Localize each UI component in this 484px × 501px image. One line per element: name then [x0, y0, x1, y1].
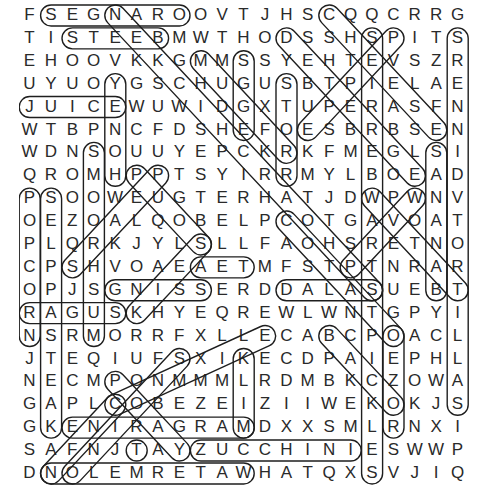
grid-letter[interactable]: R — [62, 325, 83, 347]
grid-letter[interactable]: L — [233, 370, 254, 392]
grid-letter[interactable]: X — [340, 462, 361, 484]
grid-letter[interactable]: O — [105, 325, 126, 347]
grid-letter[interactable]: C — [254, 439, 275, 461]
grid-letter[interactable]: A — [426, 210, 447, 232]
grid-letter[interactable]: U — [147, 141, 168, 163]
grid-letter[interactable]: S — [62, 27, 83, 49]
grid-letter[interactable]: P — [383, 187, 404, 209]
grid-letter[interactable]: A — [340, 348, 361, 370]
grid-letter[interactable]: E — [233, 119, 254, 141]
grid-letter[interactable]: N — [447, 96, 468, 118]
grid-letter[interactable]: G — [169, 50, 190, 72]
grid-letter[interactable]: O — [83, 187, 104, 209]
grid-letter[interactable]: U — [212, 73, 233, 95]
grid-letter[interactable]: F — [254, 119, 275, 141]
grid-letter[interactable]: S — [62, 256, 83, 278]
grid-letter[interactable]: C — [426, 325, 447, 347]
grid-letter[interactable]: S — [340, 233, 361, 255]
grid-letter[interactable]: P — [83, 119, 104, 141]
grid-letter[interactable]: S — [169, 279, 190, 301]
grid-letter[interactable]: A — [147, 439, 168, 461]
grid-letter[interactable]: S — [40, 187, 61, 209]
grid-letter[interactable]: H — [319, 50, 340, 72]
grid-letter[interactable]: L — [404, 73, 425, 95]
grid-letter[interactable]: F — [147, 348, 168, 370]
grid-letter[interactable]: C — [319, 4, 340, 26]
grid-letter[interactable]: U — [83, 302, 104, 324]
grid-letter[interactable]: L — [361, 416, 382, 438]
grid-letter[interactable]: S — [40, 325, 61, 347]
grid-letter[interactable]: L — [447, 325, 468, 347]
grid-letter[interactable]: A — [105, 210, 126, 232]
grid-letter[interactable]: M — [233, 416, 254, 438]
grid-letter[interactable]: L — [83, 462, 104, 484]
grid-letter[interactable]: A — [297, 325, 318, 347]
grid-letter[interactable]: X — [190, 325, 211, 347]
grid-letter[interactable]: Z — [190, 393, 211, 415]
grid-letter[interactable]: U — [62, 73, 83, 95]
grid-letter[interactable]: T — [233, 4, 254, 26]
grid-letter[interactable]: O — [404, 370, 425, 392]
grid-letter[interactable]: N — [383, 256, 404, 278]
grid-letter[interactable]: J — [126, 233, 147, 255]
grid-letter[interactable]: R — [83, 233, 104, 255]
grid-letter[interactable]: B — [62, 119, 83, 141]
grid-letter[interactable]: X — [254, 96, 275, 118]
grid-letter[interactable]: L — [83, 393, 104, 415]
grid-letter[interactable]: T — [361, 256, 382, 278]
grid-letter[interactable]: W — [319, 393, 340, 415]
grid-letter[interactable]: P — [340, 73, 361, 95]
grid-letter[interactable]: F — [276, 256, 297, 278]
grid-letter[interactable]: W — [319, 302, 340, 324]
grid-letter[interactable]: D — [254, 416, 275, 438]
grid-letter[interactable]: R — [361, 119, 382, 141]
grid-letter[interactable]: Q — [83, 348, 104, 370]
grid-letter[interactable]: H — [276, 439, 297, 461]
grid-letter[interactable]: R — [276, 164, 297, 186]
grid-letter[interactable]: S — [297, 27, 318, 49]
grid-letter[interactable]: P — [340, 256, 361, 278]
grid-letter[interactable]: S — [233, 50, 254, 72]
grid-letter[interactable]: R — [426, 4, 447, 26]
grid-letter[interactable]: E — [40, 370, 61, 392]
grid-letter[interactable]: U — [19, 73, 40, 95]
grid-letter[interactable]: E — [169, 393, 190, 415]
grid-letter[interactable]: K — [361, 393, 382, 415]
grid-letter[interactable]: P — [361, 325, 382, 347]
grid-letter[interactable]: R — [447, 50, 468, 72]
grid-letter[interactable]: J — [426, 393, 447, 415]
grid-letter[interactable]: L — [319, 279, 340, 301]
grid-letter[interactable]: F — [19, 4, 40, 26]
grid-letter[interactable]: K — [404, 393, 425, 415]
grid-letter[interactable]: N — [105, 119, 126, 141]
grid-letter[interactable]: R — [126, 416, 147, 438]
grid-letter[interactable]: T — [319, 73, 340, 95]
grid-letter[interactable]: H — [340, 27, 361, 49]
grid-letter[interactable]: K — [40, 416, 61, 438]
grid-letter[interactable]: I — [297, 439, 318, 461]
grid-letter[interactable]: H — [190, 73, 211, 95]
grid-letter[interactable]: P — [19, 233, 40, 255]
grid-letter[interactable]: R — [254, 164, 275, 186]
grid-letter[interactable]: E — [105, 27, 126, 49]
grid-letter[interactable]: T — [297, 462, 318, 484]
grid-letter[interactable]: X — [426, 416, 447, 438]
grid-letter[interactable]: E — [254, 302, 275, 324]
grid-letter[interactable]: V — [105, 256, 126, 278]
grid-letter[interactable]: N — [19, 325, 40, 347]
grid-letter[interactable]: U — [40, 96, 61, 118]
grid-letter[interactable]: E — [212, 187, 233, 209]
grid-letter[interactable]: H — [147, 302, 168, 324]
grid-letter[interactable]: U — [254, 73, 275, 95]
grid-letter[interactable]: J — [19, 96, 40, 118]
grid-letter[interactable]: T — [40, 119, 61, 141]
grid-letter[interactable]: D — [212, 96, 233, 118]
grid-letter[interactable]: O — [62, 164, 83, 186]
grid-letter[interactable]: M — [297, 370, 318, 392]
grid-letter[interactable]: Y — [105, 73, 126, 95]
grid-letter[interactable]: Y — [40, 73, 61, 95]
grid-letter[interactable]: N — [426, 233, 447, 255]
grid-letter[interactable]: C — [62, 370, 83, 392]
grid-letter[interactable]: J — [319, 187, 340, 209]
grid-letter[interactable]: D — [297, 348, 318, 370]
